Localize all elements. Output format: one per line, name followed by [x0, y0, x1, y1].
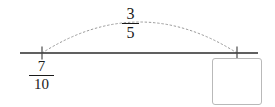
number-line-problem: 3 5 7 10	[0, 0, 275, 107]
start-numerator: 7	[29, 59, 54, 74]
jump-arc	[42, 22, 237, 53]
jump-amount-label: 3 5	[122, 6, 139, 41]
answer-input[interactable]	[212, 58, 262, 105]
jump-denominator: 5	[122, 25, 139, 41]
jump-numerator: 3	[122, 6, 139, 22]
start-value-label: 7 10	[29, 59, 54, 92]
start-denominator: 10	[29, 77, 54, 92]
